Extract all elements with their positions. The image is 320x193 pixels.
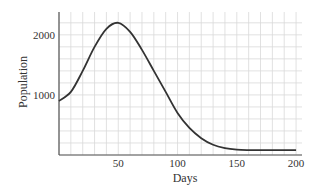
population-chart: 50100150200 10002000 Days Population: [0, 0, 320, 193]
axes: [59, 12, 302, 155]
x-tick-150: 150: [229, 157, 246, 169]
x-tick-200: 200: [288, 157, 305, 169]
y-tick-2000: 2000: [33, 29, 56, 41]
x-tick-labels: 50100150200: [113, 157, 305, 169]
y-tick-1000: 1000: [33, 89, 56, 101]
x-axis-label: Days: [173, 171, 198, 185]
x-tick-100: 100: [169, 157, 186, 169]
y-tick-labels: 10002000: [33, 29, 56, 101]
x-tick-50: 50: [113, 157, 125, 169]
grid-lines: [59, 12, 302, 155]
y-axis-label: Population: [16, 56, 30, 108]
